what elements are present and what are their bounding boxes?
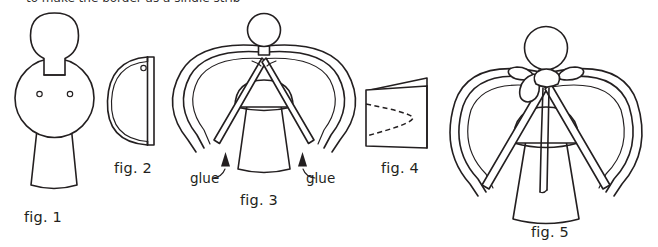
glue-label-right: glue (306, 170, 335, 186)
fig5-caption: fig. 5 (531, 224, 569, 240)
diagram-sheet: to make the border as a single strip .ln… (0, 0, 658, 247)
fig4-folded-card (366, 78, 427, 148)
figures-illustration: .ln { fill:none; stroke:#231f20; stroke-… (0, 0, 658, 247)
fig1-caption: fig. 1 (24, 209, 62, 225)
fig3-caption: fig. 3 (240, 192, 278, 208)
fig2-caption: fig. 2 (114, 160, 152, 176)
fig5-finished-angel (450, 27, 642, 224)
fig4-caption: fig. 4 (381, 160, 419, 176)
fig1-flat-template (15, 13, 94, 189)
fig3-wings-glue (172, 14, 355, 179)
glue-label-left: glue (190, 170, 219, 186)
fig2-side-view (107, 57, 154, 145)
